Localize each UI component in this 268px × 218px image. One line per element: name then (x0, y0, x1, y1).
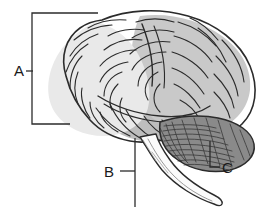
brain-diagram-svg: A B C (0, 0, 268, 218)
label-c-text: C (222, 159, 233, 176)
label-b-text: B (104, 163, 114, 180)
label-a-text: A (14, 62, 24, 79)
brain-diagram-figure: A B C (0, 0, 268, 218)
